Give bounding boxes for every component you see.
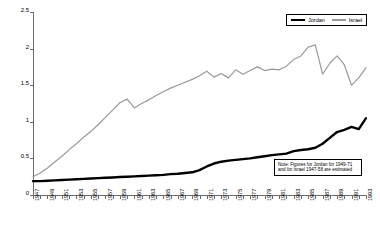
y-tick: 2.5	[0, 12, 33, 13]
x-tick-mark	[156, 195, 157, 199]
y-tick-label: 1.5	[21, 80, 29, 86]
x-tick-mark	[214, 195, 215, 199]
x-tick-mark	[40, 195, 41, 199]
x-tick-mark	[330, 195, 331, 199]
x-tick-mark	[171, 195, 172, 199]
x-tick-mark	[344, 195, 345, 199]
x-tick-mark	[113, 195, 114, 199]
line-chart: bcm / yr 00.511.522.5 194719491951195319…	[0, 0, 380, 225]
chart-legend: Jordan Israel	[286, 14, 367, 26]
x-tick-mark	[84, 195, 85, 199]
x-tick-mark	[243, 195, 244, 199]
x-tick-mark	[98, 195, 99, 199]
y-tick: 0.5	[0, 158, 33, 159]
x-tick-mark	[55, 195, 56, 199]
y-tick-label: 2	[26, 44, 29, 50]
x-tick-mark	[359, 195, 360, 199]
x-tick-mark	[286, 195, 287, 199]
legend-swatch-jordan-icon	[291, 19, 305, 21]
x-tick-mark	[200, 195, 201, 199]
x-tick-mark	[301, 195, 302, 199]
legend-swatch-israel-icon	[332, 19, 346, 20]
x-tick-mark	[315, 195, 316, 199]
x-tick-label: 1993	[368, 189, 374, 201]
y-tick: 2	[0, 49, 33, 50]
x-tick-mark	[69, 195, 70, 199]
y-tick-label: 2.5	[21, 7, 29, 13]
x-tick-mark	[228, 195, 229, 199]
y-tick-label: 0	[26, 190, 29, 196]
x-tick-mark	[142, 195, 143, 199]
x-tick-mark	[257, 195, 258, 199]
series-line-israel	[33, 45, 366, 177]
x-tick-mark	[272, 195, 273, 199]
y-tick: 1	[0, 122, 33, 123]
y-tick: 1.5	[0, 85, 33, 86]
legend-label-israel: Israel	[349, 17, 362, 23]
x-tick-mark	[127, 195, 128, 199]
chart-note-box: Note: Figures for Jordan for 1949-71 and…	[274, 159, 362, 176]
legend-label-jordan: Jordan	[308, 17, 325, 23]
note-line-2: and for Israel 1947-58 are estimated	[278, 167, 358, 172]
x-tick-mark	[185, 195, 186, 199]
y-tick: 0	[0, 195, 33, 196]
y-tick-label: 1	[26, 117, 29, 123]
legend-entry-israel: Israel	[332, 17, 362, 23]
y-tick-label: 0.5	[21, 153, 29, 159]
legend-entry-jordan: Jordan	[291, 17, 325, 23]
